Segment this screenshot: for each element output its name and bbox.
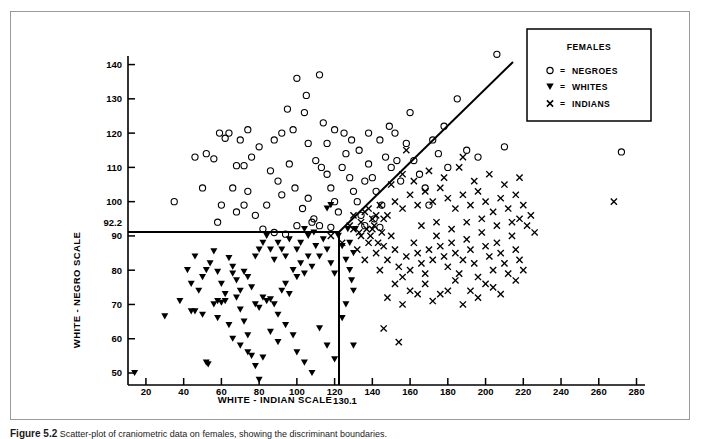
- point-cross: [452, 205, 458, 211]
- point-cross: [392, 199, 398, 205]
- point-cross: [373, 250, 379, 256]
- point-circle: [501, 144, 507, 150]
- legend-equals-1: =: [560, 82, 565, 92]
- point-triangle: [184, 267, 191, 273]
- point-cross: [464, 219, 470, 225]
- point-circle: [313, 157, 319, 163]
- point-cross: [433, 233, 439, 239]
- point-cross: [381, 216, 387, 222]
- point-circle: [233, 209, 239, 215]
- point-circle: [203, 151, 209, 157]
- point-triangle: [331, 271, 338, 277]
- point-cross: [524, 223, 530, 229]
- point-cross: [415, 250, 421, 256]
- point-circle: [377, 137, 383, 143]
- point-cross: [403, 253, 409, 259]
- point-cross: [490, 267, 496, 273]
- point-circle: [320, 120, 326, 126]
- caption-label: Figure 5.2: [10, 428, 57, 439]
- point-triangle: [278, 288, 285, 294]
- point-circle: [305, 195, 311, 201]
- y-tick-label: 130: [106, 93, 122, 104]
- point-cross: [452, 250, 458, 256]
- legend: FEMALES = NEGROES = WHITES = INDIANS: [527, 29, 651, 121]
- point-cross: [388, 233, 394, 239]
- point-triangle: [290, 267, 297, 273]
- point-triangle: [327, 260, 334, 266]
- point-triangle: [256, 305, 263, 311]
- point-triangle: [293, 274, 300, 280]
- point-circle: [292, 185, 298, 191]
- point-cross: [426, 168, 432, 174]
- point-triangle: [297, 260, 304, 266]
- legend-equals-2: =: [560, 99, 565, 109]
- point-triangle: [312, 243, 319, 249]
- point-circle: [284, 106, 290, 112]
- point-triangle: [308, 370, 315, 376]
- legend-label-indians: INDIANS: [572, 99, 610, 109]
- point-circle: [416, 171, 422, 177]
- point-cross: [464, 236, 470, 242]
- caption-text: Scatter-plot of craniometric data on fem…: [60, 429, 387, 439]
- point-triangle: [229, 264, 236, 270]
- point-triangle: [293, 247, 300, 253]
- point-cross: [528, 212, 534, 218]
- point-circle: [394, 157, 400, 163]
- x-tick-label: 40: [178, 386, 189, 397]
- y-tick-label: 140: [106, 59, 122, 70]
- point-cross: [396, 264, 402, 270]
- point-triangle: [293, 349, 300, 355]
- point-circle: [192, 154, 198, 160]
- point-circle: [382, 154, 388, 160]
- point-triangle: [282, 253, 289, 259]
- point-cross: [516, 257, 522, 263]
- point-circle: [316, 72, 322, 78]
- point-cross: [358, 219, 364, 225]
- point-cross: [403, 147, 409, 153]
- point-triangle: [282, 281, 289, 287]
- point-circle: [267, 168, 273, 174]
- point-triangle: [275, 312, 282, 318]
- point-circle: [464, 147, 470, 153]
- point-cross: [467, 247, 473, 253]
- point-triangle: [286, 291, 293, 297]
- point-cross: [498, 195, 504, 201]
- point-triangle: [244, 274, 251, 280]
- point-triangle: [316, 325, 323, 331]
- point-triangle: [350, 342, 357, 348]
- point-circle: [215, 219, 221, 225]
- point-triangle: [342, 301, 349, 307]
- point-triangle: [222, 291, 229, 297]
- point-triangle: [267, 329, 274, 335]
- point-circle: [237, 137, 243, 143]
- point-triangle: [203, 267, 210, 273]
- point-cross: [471, 260, 477, 266]
- point-triangle: [237, 307, 244, 313]
- point-cross: [520, 267, 526, 273]
- y-tick-label: 70: [111, 299, 122, 310]
- point-cross: [426, 247, 432, 253]
- point-circle: [445, 164, 451, 170]
- point-cross: [467, 288, 473, 294]
- point-triangle: [161, 313, 168, 319]
- point-triangle: [263, 233, 270, 239]
- point-circle: [475, 154, 481, 160]
- point-circle: [318, 164, 324, 170]
- point-triangle: [350, 288, 357, 294]
- point-triangle: [176, 298, 183, 304]
- point-circle: [279, 130, 285, 136]
- point-cross: [516, 216, 522, 222]
- point-circle: [618, 149, 624, 155]
- point-cross: [407, 192, 413, 198]
- point-triangle: [214, 269, 221, 275]
- point-circle: [271, 137, 277, 143]
- point-cross: [486, 253, 492, 259]
- point-cross: [448, 240, 454, 246]
- point-circle: [328, 185, 334, 191]
- point-circle: [403, 140, 409, 146]
- point-cross: [513, 247, 519, 253]
- point-cross: [445, 264, 451, 270]
- point-circle: [362, 178, 368, 184]
- point-cross: [433, 219, 439, 225]
- point-cross: [381, 243, 387, 249]
